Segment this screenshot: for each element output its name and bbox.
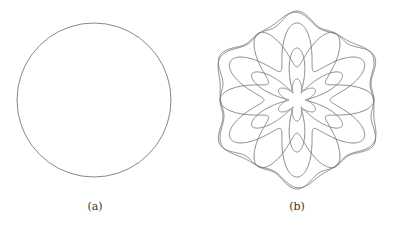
caption-b: (b) bbox=[277, 200, 317, 213]
panel-a-circle bbox=[17, 23, 171, 177]
outer-ring-1 bbox=[218, 11, 375, 189]
petal-ring bbox=[252, 48, 343, 152]
mid-ring-1 bbox=[229, 23, 364, 177]
panel-b-rosette bbox=[218, 11, 376, 189]
circle-curve bbox=[17, 23, 171, 177]
caption-a: (a) bbox=[75, 200, 115, 213]
mid-ring-2 bbox=[220, 32, 374, 167]
outer-ring-2 bbox=[218, 12, 376, 188]
figure-canvas bbox=[0, 0, 393, 228]
